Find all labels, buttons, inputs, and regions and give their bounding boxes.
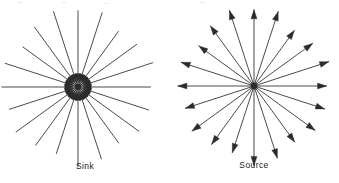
field-ray [181, 62, 251, 85]
field-ray [229, 11, 252, 83]
field-ray [255, 12, 278, 83]
field-ray [257, 88, 315, 130]
field-ray [81, 89, 139, 131]
field-arrowhead [272, 148, 278, 157]
field-ray [257, 62, 328, 85]
field-arrowhead [178, 83, 187, 89]
field-ray [16, 89, 75, 132]
field-arrowhead [199, 46, 208, 54]
field-ray [34, 27, 76, 84]
field-ray [257, 87, 324, 109]
source-vector-field-diagram [169, 0, 339, 183]
field-ray [81, 63, 152, 86]
field-arrowhead [251, 10, 257, 19]
field-ray [79, 13, 102, 84]
vector-field-figure: Sink Source [0, 0, 339, 183]
field-ray [79, 90, 101, 159]
field-ray [257, 43, 313, 84]
field-arrowhead [185, 103, 194, 109]
field-arrowhead [210, 26, 218, 35]
panel-caption-sink: Sink [0, 161, 170, 171]
field-ray [210, 26, 252, 83]
field-ray [192, 88, 251, 131]
sink-center-point [75, 84, 82, 91]
field-arrowhead [229, 11, 235, 20]
field-ray [255, 89, 277, 158]
field-ray [53, 12, 76, 84]
field-arrowhead [306, 123, 315, 131]
field-ray [256, 31, 294, 84]
field-arrowhead [315, 103, 324, 109]
field-arrowhead [319, 62, 328, 68]
sink-vector-field-diagram [0, 0, 170, 183]
panel-sink: Sink [0, 0, 170, 183]
field-arrowhead [273, 12, 279, 21]
field-arrowhead [318, 83, 327, 89]
field-ray [212, 89, 252, 145]
source-center-point [251, 83, 258, 90]
field-arrowhead [304, 43, 313, 51]
field-ray [5, 63, 75, 86]
panel-caption-source: Source [169, 160, 339, 170]
field-arrowhead [212, 135, 220, 144]
field-arrowhead [287, 133, 295, 142]
field-ray [36, 90, 76, 146]
field-arrowhead [192, 123, 201, 131]
field-ray [199, 46, 251, 84]
field-ray [81, 44, 137, 85]
field-ray [9, 88, 74, 109]
field-ray [81, 88, 148, 110]
field-ray [232, 89, 253, 152]
field-ray [256, 89, 295, 142]
field-arrowhead [287, 31, 295, 40]
field-ray [185, 87, 250, 108]
field-arrowhead [181, 62, 190, 68]
field-arrowhead [232, 143, 238, 152]
panel-source: Source [169, 0, 339, 183]
